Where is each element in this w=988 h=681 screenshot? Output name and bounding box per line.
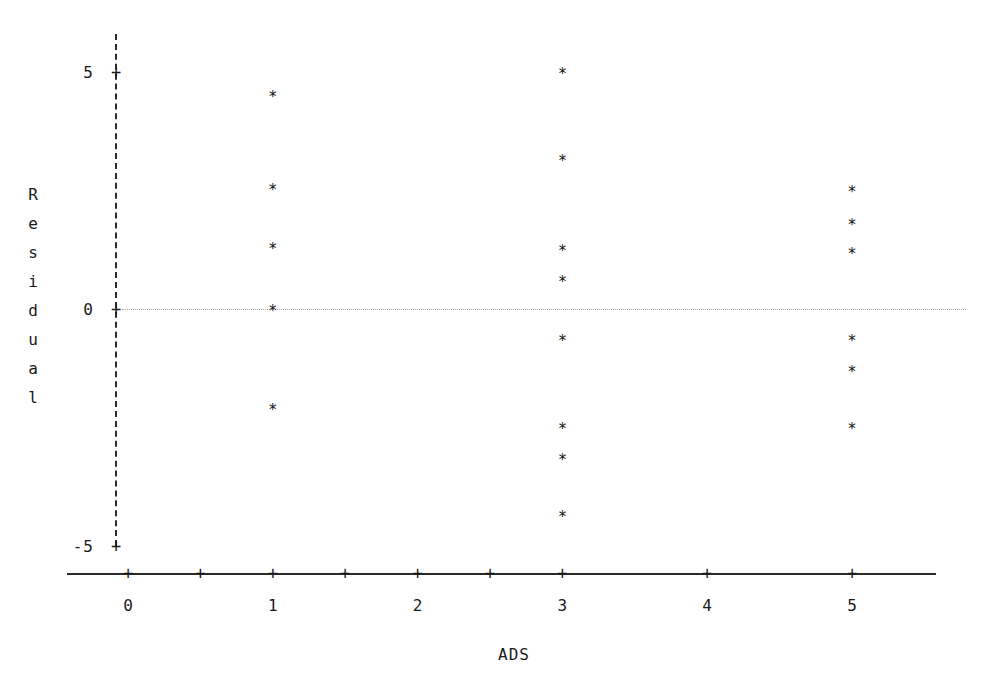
x-axis-tick-label: 5 — [832, 596, 872, 615]
y-axis-title-letter: u — [22, 325, 44, 354]
data-point-marker: * — [558, 244, 567, 259]
y-axis-tick-label: 5 — [34, 63, 94, 82]
data-point-marker: * — [558, 154, 567, 169]
x-axis-tick-mark: + — [340, 565, 350, 582]
data-point-marker: * — [558, 509, 567, 524]
y-axis-title-letter: R — [22, 180, 44, 209]
x-axis-tick-mark: + — [412, 565, 422, 582]
y-axis-title-letter: e — [22, 209, 44, 238]
data-point-marker: * — [847, 422, 856, 437]
data-point-marker: * — [847, 246, 856, 261]
data-point-marker: * — [268, 303, 277, 318]
data-point-marker: * — [847, 218, 856, 233]
y-axis-title: R e s i d u a l — [22, 180, 44, 412]
y-axis-title-letter: l — [22, 383, 44, 412]
x-axis-title: ADS — [0, 645, 988, 664]
x-axis-title-text: ADS — [498, 645, 530, 664]
y-axis-tick-label: -5 — [34, 537, 94, 556]
x-axis-tick-mark: + — [847, 565, 857, 582]
x-axis-tick-label: 3 — [542, 596, 582, 615]
x-axis-tick-mark: + — [195, 565, 205, 582]
zero-reference-line — [122, 309, 966, 310]
data-point-marker: * — [847, 334, 856, 349]
data-point-marker: * — [558, 452, 567, 467]
y-axis-tick-mark: + — [111, 64, 121, 81]
x-axis-tick-mark: + — [485, 565, 495, 582]
y-axis-title-letter: s — [22, 238, 44, 267]
x-axis-tick-label: 1 — [253, 596, 293, 615]
data-point-marker: * — [558, 275, 567, 290]
y-axis-tick-mark: + — [111, 538, 121, 555]
x-axis-tick-label: 2 — [398, 596, 438, 615]
y-axis-title-letter: a — [22, 354, 44, 383]
data-point-marker: * — [268, 403, 277, 418]
data-point-marker: * — [558, 66, 567, 81]
x-axis-tick-mark: + — [557, 565, 567, 582]
data-point-marker: * — [268, 90, 277, 105]
x-axis-tick-mark: + — [123, 565, 133, 582]
y-axis-tick-mark: + — [111, 301, 121, 318]
x-axis-tick-label: 4 — [687, 596, 727, 615]
x-axis-tick-mark: + — [268, 565, 278, 582]
data-point-marker: * — [558, 334, 567, 349]
y-axis-line — [115, 34, 117, 546]
data-point-marker: * — [847, 185, 856, 200]
data-point-marker: * — [558, 422, 567, 437]
data-point-marker: * — [847, 365, 856, 380]
y-axis-tick-label: 0 — [34, 300, 94, 319]
x-axis-tick-label: 0 — [108, 596, 148, 615]
data-point-marker: * — [268, 242, 277, 257]
x-axis-tick-mark: + — [702, 565, 712, 582]
y-axis-title-letter: i — [22, 267, 44, 296]
residual-scatter-plot: R e s i d u a l ADS +-5+0+5+++++++++0123… — [0, 0, 988, 681]
data-point-marker: * — [268, 182, 277, 197]
